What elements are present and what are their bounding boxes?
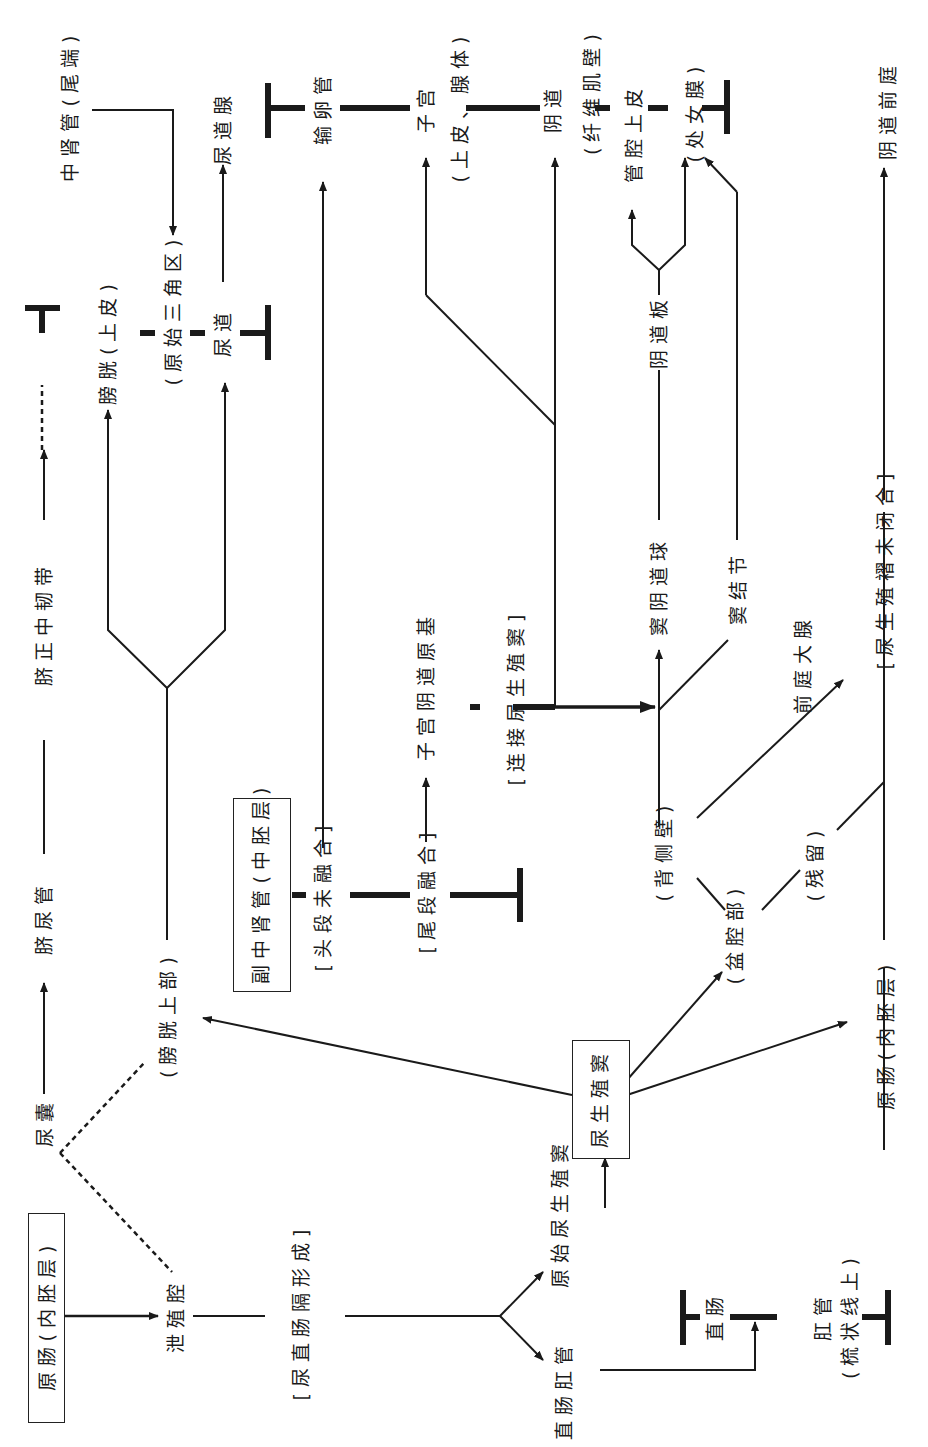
label-uterovaginal-primordium: 子宫阴道原基 [417,631,436,761]
label-allantois: 尿囊 [36,1087,55,1157]
label-connect-ugs: [连接尿生殖窦] [507,626,526,786]
label-cloaca: 泄殖腔 [167,1276,186,1356]
embryology-flow-diagram: 原肠(内胚层) 泄殖腔 尿囊 脐尿管 脐正中韧带 (膀胱上部) 膀胱(上皮) (… [0,0,928,1447]
label-uterus: 子宫 [417,80,436,136]
label-vagina-detail: (纤维肌壁) [583,17,602,167]
label-median-umbilical-ligament: 脐正中韧带 [35,544,54,704]
label-urogenital-sinus: 尿生殖窦 [591,1048,610,1148]
label-vaginal-vestibule: 阴道前庭 [879,60,898,160]
label-primitive-gut-left: 原肠(内胚层) [38,1221,57,1411]
label-vagina: 阴道 [544,78,563,138]
label-urachus: 脐尿管 [35,863,54,973]
label-caudal-fused: [尾段融合] [418,834,437,954]
label-dorsal-wall: (背侧壁) [655,822,674,902]
label-pelvic-part: (盆腔部) [726,895,745,985]
label-paramesonephric-duct: 副中肾管(中胚层) [252,804,271,984]
label-ug-fold-unclosed: [尿生殖褶未闭合] [876,500,895,670]
label-urethra: 尿道 [214,297,233,367]
connector-lines [0,0,928,1447]
label-sinovaginal-bulb: 窦阴道球 [650,536,669,636]
label-oviduct: 输卵管 [314,68,333,148]
label-uterus-detail: (上皮、腺体) [451,33,470,183]
label-lumen-epithelium: 管腔上皮 [625,93,644,183]
label-mesonephric-duct: 中肾管(尾端) [61,42,80,182]
label-anal-canal: 肛管 [814,1283,833,1349]
label-vaginal-plate: 阴道板 [650,292,669,372]
label-anal-canal-detail: (梳状线上) [841,1246,860,1386]
label-anorectal-canal: 直肠肛管 [555,1340,574,1440]
label-sinus-tubercle: 窦结节 [729,548,748,628]
label-trigone: (原始三角区) [164,220,183,400]
label-rectum: 直肠 [706,1283,725,1349]
label-hymen: (处女膜) [686,52,705,172]
label-bladder-epithelium: 膀胱(上皮) [99,262,118,422]
label-cranial-unfused: [头段未融合] [314,832,333,972]
label-primitive-gut-right: 原肠(内胚层) [877,945,896,1125]
label-remnant: (残留) [806,832,825,902]
label-primitive-ugs: 原始尿生殖窦 [551,1158,570,1288]
label-urorectal-septum: [尿直肠隔形成] [292,1231,311,1401]
label-bladder-upper: (膀胱上部) [159,925,178,1105]
label-urethral-glands: 尿道腺 [214,83,233,173]
label-vestibular-gland: 前庭大腺 [794,614,813,714]
